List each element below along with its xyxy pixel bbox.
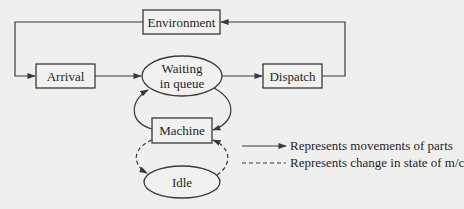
edge-machine-to-waiting	[134, 90, 152, 129]
node-idle-label: Idle	[172, 175, 192, 190]
legend-dashed-label: Represents change in state of m/c	[290, 155, 464, 170]
edge-waiting-to-machine	[212, 87, 231, 130]
legend-item-dashed: Represents change in state of m/c	[242, 155, 464, 170]
node-machine-label: Machine	[159, 123, 205, 138]
legend-solid-label: Represents movements of parts	[290, 138, 453, 153]
node-dispatch: Dispatch	[263, 64, 322, 88]
flow-diagram: Environment Arrival Waiting in queue Dis…	[0, 0, 464, 209]
node-waiting-label-line2: in queue	[160, 76, 205, 91]
node-idle: Idle	[144, 166, 220, 198]
node-environment: Environment	[143, 10, 220, 34]
diagram-canvas: Environment Arrival Waiting in queue Dis…	[0, 0, 464, 209]
node-waiting-in-queue: Waiting in queue	[142, 56, 222, 96]
node-dispatch-label: Dispatch	[269, 69, 316, 84]
edge-machine-to-idle	[136, 140, 152, 173]
edge-idle-to-machine	[213, 140, 228, 175]
node-arrival: Arrival	[36, 64, 95, 88]
legend-item-solid: Represents movements of parts	[242, 138, 453, 153]
node-machine: Machine	[152, 118, 212, 143]
legend: Represents movements of parts Represents…	[242, 138, 464, 170]
node-arrival-label: Arrival	[47, 69, 85, 84]
node-environment-label: Environment	[148, 15, 216, 30]
node-waiting-label-line1: Waiting	[162, 61, 203, 76]
